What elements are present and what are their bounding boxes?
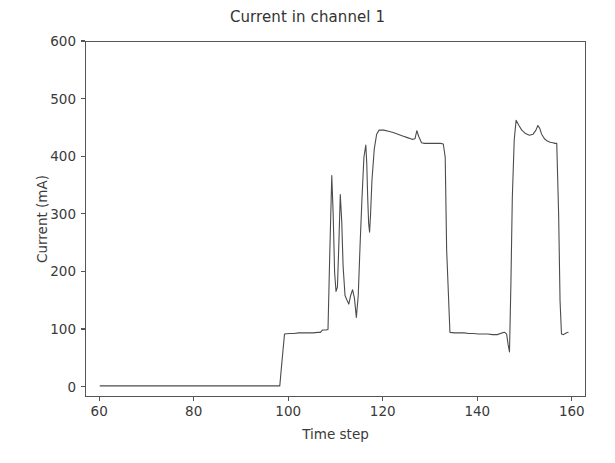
chart-figure: Current in channel 1 0100200300400500600… [0,0,615,463]
x-axis-label: Time step [85,426,586,442]
data-series-line [86,42,587,398]
x-tick-label: 100 [258,403,318,419]
plot-area [85,41,586,397]
x-tick-label: 160 [542,403,602,419]
chart-title: Current in channel 1 [0,8,615,26]
x-tick-label: 120 [353,403,413,419]
series-polyline [100,120,568,386]
x-tick-label: 140 [447,403,507,419]
y-axis-label: Current (mA) [34,41,56,397]
x-tick-label: 60 [69,403,129,419]
x-tick-label: 80 [164,403,224,419]
